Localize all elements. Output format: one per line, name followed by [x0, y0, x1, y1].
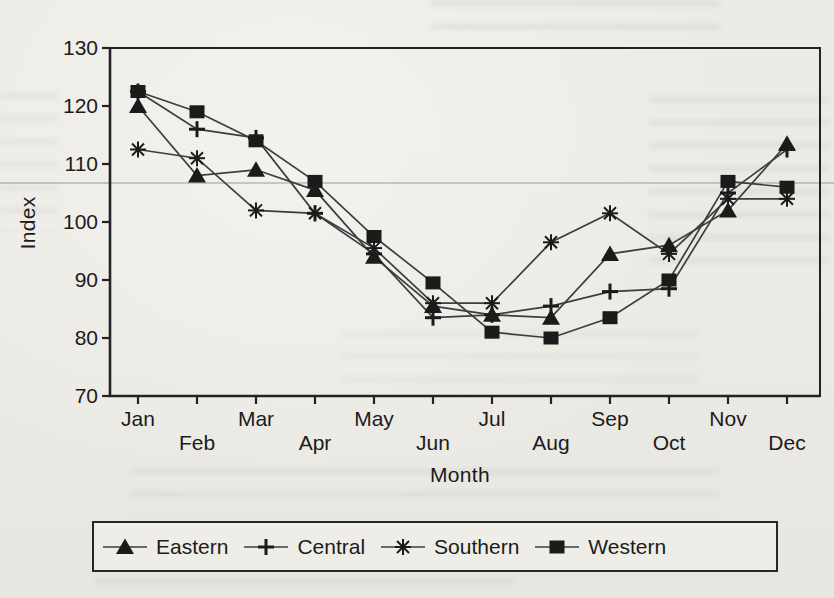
marker-southern-aug	[543, 234, 559, 250]
series-line-western	[138, 92, 787, 339]
y-tick-label-80: 80	[75, 326, 98, 349]
x-tick-label-dec: Dec	[768, 431, 805, 454]
chart-legend: Eastern Central Southern Western	[92, 521, 778, 572]
marker-southern-sep	[602, 205, 618, 221]
y-tick-label-90: 90	[75, 268, 98, 291]
marker-western-oct	[662, 274, 677, 287]
legend-label-eastern: Eastern	[156, 535, 228, 559]
triangle-marker-icon	[102, 538, 148, 556]
marker-western-jul	[485, 326, 500, 339]
x-tick-label-jul: Jul	[479, 407, 506, 430]
axes	[110, 48, 820, 396]
x-tick-label-apr: Apr	[299, 431, 332, 454]
series-line-eastern	[138, 106, 787, 318]
marker-western-apr	[308, 175, 323, 188]
x-tick-label-oct: Oct	[653, 431, 686, 454]
x-tick-label-jun: Jun	[416, 431, 450, 454]
marker-western-jun	[426, 276, 441, 289]
legend-entry-southern: Southern	[380, 535, 519, 559]
x-tick-label-mar: Mar	[238, 407, 274, 430]
marker-eastern-jan	[129, 98, 147, 114]
series-line-central	[138, 92, 787, 318]
marker-central-sep	[602, 284, 618, 300]
marker-western-jan	[131, 85, 146, 98]
legend-label-southern: Southern	[434, 535, 519, 559]
line-chart: 708090100110120130JanFebMarAprMayJunJulA…	[0, 0, 834, 598]
square-marker-icon	[534, 538, 580, 556]
x-axis-title: Month	[410, 463, 510, 487]
marker-western-aug	[544, 332, 559, 345]
marker-eastern-oct	[660, 237, 678, 253]
marker-western-feb	[190, 105, 205, 118]
marker-western-may	[367, 230, 382, 243]
marker-eastern-mar	[247, 161, 265, 177]
legend-label-western: Western	[588, 535, 666, 559]
marker-southern-mar	[248, 202, 264, 218]
x-tick-label-aug: Aug	[532, 431, 569, 454]
legend-entry-western: Western	[534, 535, 666, 559]
x-tick-label-jan: Jan	[121, 407, 155, 430]
marker-western-dec	[780, 181, 795, 194]
y-tick-label-100: 100	[63, 210, 98, 233]
x-tick-label-nov: Nov	[709, 407, 747, 430]
x-tick-label-may: May	[354, 407, 394, 430]
legend-entry-eastern: Eastern	[102, 535, 228, 559]
y-tick-label-120: 120	[63, 94, 98, 117]
marker-southern-feb	[189, 150, 205, 166]
scanned-chart-page: 708090100110120130JanFebMarAprMayJunJulA…	[0, 0, 834, 598]
x-tick-label-sep: Sep	[591, 407, 628, 430]
plot-frame	[110, 48, 820, 396]
y-tick-label-70: 70	[75, 384, 98, 407]
y-tick-label-130: 130	[63, 36, 98, 59]
asterisk-marker-icon	[380, 538, 426, 556]
y-tick-label-110: 110	[65, 152, 98, 175]
plus-marker-icon	[243, 538, 289, 556]
marker-central-feb	[189, 121, 205, 137]
marker-eastern-dec	[778, 135, 796, 151]
marker-western-nov	[721, 175, 736, 188]
legend-label-central: Central	[297, 535, 365, 559]
x-tick-label-feb: Feb	[179, 431, 215, 454]
marker-western-sep	[603, 311, 618, 324]
marker-western-mar	[249, 134, 264, 147]
marker-southern-jan	[130, 142, 146, 158]
y-axis-title: Index	[16, 173, 40, 273]
legend-entry-central: Central	[243, 535, 365, 559]
